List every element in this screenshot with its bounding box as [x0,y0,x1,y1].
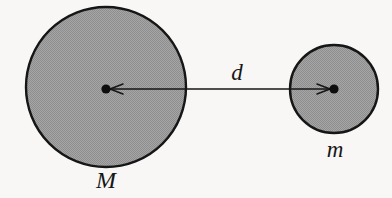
diagram-canvas [0,0,392,198]
small-mass-center-dot [329,84,338,93]
distance-label: d [218,61,256,84]
gravitation-diagram: d M m [0,0,392,198]
large-mass-label: M [86,168,126,192]
small-mass-label: m [315,138,355,161]
large-mass-center-dot [101,84,110,93]
